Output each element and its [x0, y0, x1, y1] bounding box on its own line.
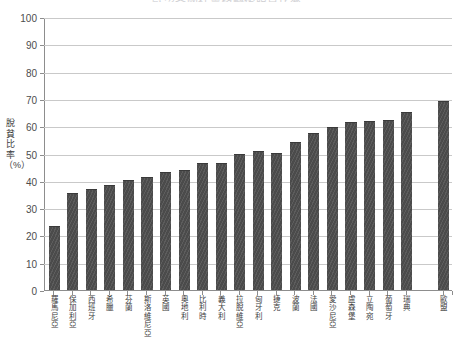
x-tick-label: 愛沙尼亞	[327, 296, 338, 330]
x-tick-label: 捷克	[271, 296, 282, 313]
bar-rect	[234, 154, 245, 290]
x-axis-labels: 羅馬尼亞保加利亞西班牙希臘芬蘭斯洛維尼亞英國奧地利比利時義大利拉脫維亞匈牙利捷克…	[45, 296, 453, 351]
bar-rect	[438, 101, 449, 290]
bar-rect	[290, 142, 301, 290]
bar-rect	[123, 180, 134, 290]
x-tick-label: 斯洛維尼亞	[142, 296, 153, 338]
x-tick-label: 比利時	[197, 296, 208, 321]
bar-rect	[401, 112, 412, 290]
y-tick-label: 50	[26, 149, 37, 160]
bar-rect	[327, 127, 338, 290]
bar-義大利	[216, 18, 227, 290]
bar-匈牙利	[253, 18, 264, 290]
bar-盧森堡	[345, 18, 356, 290]
y-tick-label: 80	[26, 67, 37, 78]
x-tick-label: 拉脫維亞	[234, 296, 245, 330]
x-tick-label: 芬蘭	[123, 296, 134, 313]
bar-保加利亞	[67, 18, 78, 290]
bar-奧地利	[179, 18, 190, 290]
x-tick-label: 葡萄牙	[383, 296, 394, 321]
bar-rect	[104, 185, 115, 290]
y-tick-label: 20	[26, 231, 37, 242]
x-tick-label: 保加利亞	[67, 296, 78, 330]
bar-rect	[179, 170, 190, 290]
x-tick-label: 瑞典	[401, 296, 412, 313]
bar-斯洛維尼亞	[141, 18, 152, 290]
y-axis-title: 脫貧比率（%）	[4, 118, 16, 171]
bar-rect	[383, 120, 394, 290]
bar-拉脫維亞	[234, 18, 245, 290]
y-tick-mark	[40, 264, 44, 265]
bar-愛沙尼亞	[327, 18, 338, 290]
bar-rect	[345, 122, 356, 290]
y-tick-label: 70	[26, 94, 37, 105]
bar-rect	[160, 172, 171, 290]
bar-rect	[253, 151, 264, 290]
bar-rect	[67, 193, 78, 290]
bar-rect	[197, 163, 208, 290]
bar-瑞典	[401, 18, 412, 290]
y-tick-label: 0	[31, 286, 37, 297]
plot-area: 1009080706050403020100	[44, 18, 452, 291]
y-tick-mark	[40, 18, 44, 19]
bar-比利時	[197, 18, 208, 290]
bar-西班牙	[86, 18, 97, 290]
x-tick-label: 立陶宛	[364, 296, 375, 321]
x-tick-label: 波蘭	[290, 296, 301, 313]
y-tick-mark	[40, 155, 44, 156]
y-tick-label: 100	[20, 13, 37, 24]
y-tick-label: 60	[26, 122, 37, 133]
bar-series	[45, 18, 452, 290]
x-tick-mark	[452, 291, 453, 295]
chart-root: 歐盟各國社會移轉後脫貧比率 脫貧比率（%） 100908070605040302…	[0, 0, 454, 351]
bar-捷克	[271, 18, 282, 290]
x-axis-line	[44, 290, 452, 291]
y-tick-label: 40	[26, 176, 37, 187]
x-tick-label: 英國	[160, 296, 171, 313]
bar-立陶宛	[364, 18, 375, 290]
bar-英國	[160, 18, 171, 290]
y-axis-title-text: 脫貧比率（%）	[4, 118, 16, 171]
bar-rect	[308, 133, 319, 290]
x-tick-label: 歐盟	[438, 296, 449, 313]
y-tick-mark	[40, 127, 44, 128]
bar-rect	[271, 153, 282, 291]
bar-rect	[216, 163, 227, 290]
bar-波蘭	[290, 18, 301, 290]
y-tick-label: 30	[26, 204, 37, 215]
y-tick-label: 90	[26, 40, 37, 51]
x-tick-label: 盧森堡	[346, 296, 357, 321]
y-tick-mark	[40, 236, 44, 237]
x-tick-label: 希臘	[104, 296, 115, 313]
y-tick-mark	[40, 291, 44, 292]
bar-歐盟	[438, 18, 449, 290]
bar-rect	[364, 121, 375, 290]
y-tick-mark	[40, 45, 44, 46]
x-tick-label: 法國	[308, 296, 319, 313]
y-tick-mark	[40, 73, 44, 74]
bar-芬蘭	[123, 18, 134, 290]
bar-rect	[86, 189, 97, 290]
bar-葡萄牙	[383, 18, 394, 290]
x-tick-label: 奧地利	[179, 296, 190, 321]
bar-法國	[308, 18, 319, 290]
x-tick-label: 羅馬尼亞	[49, 296, 60, 330]
chart-title: 歐盟各國社會移轉後脫貧比率	[0, 0, 454, 2]
bar-羅馬尼亞	[49, 18, 60, 290]
bar-rect	[49, 226, 60, 290]
x-tick-label: 西班牙	[86, 296, 97, 321]
y-tick-mark	[40, 209, 44, 210]
y-tick-mark	[40, 182, 44, 183]
bar-希臘	[104, 18, 115, 290]
x-tick-label: 義大利	[216, 296, 227, 321]
y-tick-label: 10	[26, 258, 37, 269]
bar-rect	[141, 177, 152, 290]
x-tick-label: 匈牙利	[253, 296, 264, 321]
y-tick-mark	[40, 100, 44, 101]
